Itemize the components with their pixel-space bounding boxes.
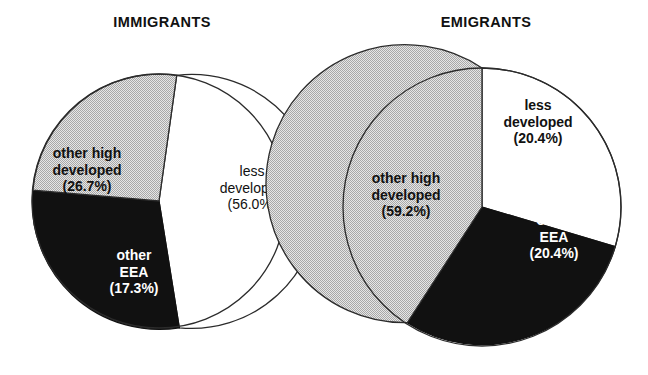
emigrants-pie-svg bbox=[324, 0, 648, 375]
emigrants-pie-chart: EMIGRANTS less developed (20.4%) bbox=[324, 0, 648, 375]
slice-immigrants-other-eea[interactable] bbox=[32, 190, 179, 329]
slice-immigrants-other-high-developed[interactable] bbox=[33, 74, 177, 201]
pie-chart-figure: IMMIGRANTS less developed (56.0%) bbox=[0, 0, 648, 375]
